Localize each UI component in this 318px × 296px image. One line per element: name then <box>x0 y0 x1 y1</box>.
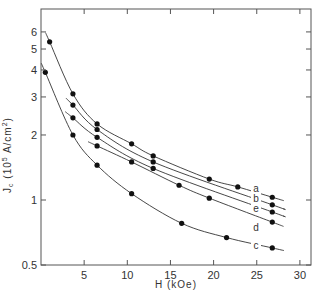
data-point <box>70 103 75 108</box>
data-point <box>235 184 240 189</box>
svg-text:Jc (105 A/cm2): Jc (105 A/cm2) <box>1 117 14 193</box>
curve-label: d <box>253 222 259 233</box>
data-point <box>94 121 99 126</box>
data-point <box>270 195 275 200</box>
series-c: c <box>41 63 284 251</box>
data-point <box>47 39 52 44</box>
data-point <box>94 135 99 140</box>
data-point <box>270 220 275 225</box>
data-point <box>207 176 212 181</box>
x-tick-label: 10 <box>121 269 133 281</box>
x-axis-label: H (kOe) <box>155 279 197 290</box>
data-point <box>70 91 75 96</box>
data-point <box>129 159 134 164</box>
data-point <box>94 127 99 132</box>
curve-label: e <box>253 203 259 214</box>
data-point <box>129 191 134 196</box>
data-point <box>176 183 181 188</box>
data-curves: abedc <box>41 33 285 251</box>
y-tick-label: 3 <box>31 91 37 103</box>
y-tick-label: 4 <box>31 64 37 76</box>
axis-ticks: 510152025300.5123456 <box>22 9 311 281</box>
data-point <box>151 153 156 158</box>
plot-frame <box>41 9 311 265</box>
x-tick-label: 20 <box>207 269 219 281</box>
y-tick-label: 0.5 <box>22 259 37 271</box>
data-point <box>151 166 156 171</box>
x-tick-label: 5 <box>81 269 87 281</box>
x-tick-label: 30 <box>294 269 306 281</box>
series-b: b <box>66 98 285 210</box>
data-point <box>70 132 75 137</box>
data-point <box>70 115 75 120</box>
chart: abedc 510152025300.5123456 H (kOe) Jc (1… <box>0 0 318 296</box>
y-tick-label: 5 <box>31 43 37 55</box>
data-point <box>94 143 99 148</box>
data-point <box>129 141 134 146</box>
data-point <box>43 70 48 75</box>
data-point <box>224 235 229 240</box>
data-point <box>94 163 99 168</box>
y-tick-label: 2 <box>31 129 37 141</box>
y-tick-label: 1 <box>31 194 37 206</box>
series-a: a <box>46 33 284 201</box>
x-tick-label: 25 <box>251 269 263 281</box>
data-point <box>270 209 275 214</box>
y-tick-label: 6 <box>31 26 37 38</box>
data-point <box>207 196 212 201</box>
y-axis-label: Jc (105 A/cm2) <box>1 117 14 193</box>
data-point <box>179 221 184 226</box>
data-point <box>270 202 275 207</box>
data-point <box>270 245 275 250</box>
curve-label: c <box>254 240 259 251</box>
data-point <box>151 159 156 164</box>
